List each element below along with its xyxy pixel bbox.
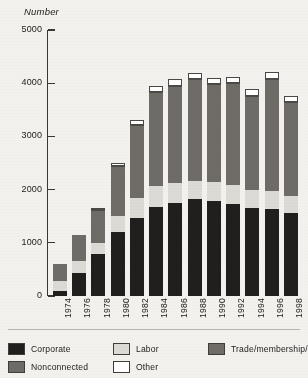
bar-1998 (284, 96, 298, 296)
bar-segment-other (168, 79, 182, 86)
bar-segment-other (207, 78, 221, 85)
y-axis-title: Number (24, 6, 59, 17)
bar-segment-labor (72, 261, 86, 273)
x-axis-label-1978: 1978 (102, 298, 112, 318)
bar-segment-nonconnected (149, 92, 163, 148)
x-axis-label-1996: 1996 (275, 298, 285, 318)
bar-segment-corporate (130, 218, 144, 296)
bar-segment-trade-membership-health (72, 235, 86, 261)
bar-segment-corporate (245, 208, 259, 296)
legend-swatch-icon (208, 343, 225, 355)
bar-segment-labor (111, 216, 125, 232)
legend-divider (8, 329, 300, 330)
x-axis-label-1974: 1974 (63, 298, 73, 318)
bar-segment-labor (284, 196, 298, 213)
bar-segment-trade-membership-health (188, 139, 202, 181)
legend-item-labor[interactable]: Labor (113, 343, 159, 355)
x-axis-label-1998: 1998 (294, 298, 304, 318)
bar-segment-nonconnected (188, 79, 202, 138)
bar-segment-labor (168, 183, 182, 203)
bar-segment-nonconnected (245, 96, 259, 148)
x-axis-label-1986: 1986 (179, 298, 189, 318)
bar-segment-trade-membership-health (245, 148, 259, 190)
legend-label: Other (136, 362, 158, 372)
legend-label: Nonconnected (31, 362, 88, 372)
y-axis-tick-label: 3000 (22, 130, 42, 140)
x-axis-label-1980: 1980 (121, 298, 131, 318)
bar-segment-trade-membership-health (226, 144, 240, 185)
bar-segment-trade-membership-health (149, 148, 163, 185)
bar-1986 (168, 79, 182, 296)
bar-1976 (72, 235, 86, 296)
bar-segment-labor (149, 186, 163, 207)
bar-segment-corporate (265, 209, 279, 296)
bar-segment-trade-membership-health (168, 143, 182, 183)
y-axis-tick-label: 2000 (22, 184, 42, 194)
bar-segment-corporate (207, 201, 221, 296)
y-axis-tick-label: 1000 (22, 237, 42, 247)
bar-segment-corporate (111, 232, 125, 296)
chart-legend: CorporateNonconnectedLaborOtherTrade/mem… (0, 329, 308, 378)
bar-1974 (53, 264, 67, 296)
legend-label: Trade/membership/health (231, 344, 308, 354)
bar-1978 (91, 208, 105, 296)
x-axis-label-1988: 1988 (198, 298, 208, 318)
legend-item-corporate[interactable]: Corporate (8, 343, 71, 355)
legend-label: Labor (136, 344, 159, 354)
bar-segment-labor (188, 181, 202, 200)
bar-segment-labor (53, 281, 67, 292)
plot-area (47, 30, 305, 296)
bar-segment-trade-membership-health (207, 141, 221, 182)
bar-segment-corporate (53, 291, 67, 296)
bar-segment-corporate (188, 199, 202, 296)
legend-item-trade-membership-health[interactable]: Trade/membership/health (208, 343, 308, 355)
bar-segment-trade-membership-health (130, 163, 144, 198)
bar-segment-other (149, 86, 163, 93)
legend-swatch-icon (113, 343, 130, 355)
y-axis-tick-label: 4000 (22, 77, 42, 87)
bar-1990 (207, 78, 221, 296)
x-axis-label-1982: 1982 (140, 298, 150, 318)
bar-segment-trade-membership-health (111, 186, 125, 217)
bar-segment-other (188, 73, 202, 80)
bar-1994 (245, 89, 259, 296)
bar-segment-other (245, 89, 259, 96)
bar-segment-corporate (91, 254, 105, 296)
legend-item-nonconnected[interactable]: Nonconnected (8, 361, 88, 373)
bar-segment-labor (265, 191, 279, 209)
legend-swatch-icon (113, 361, 130, 373)
y-axis-tick-label: 5000 (22, 24, 42, 34)
bar-segment-nonconnected (265, 79, 279, 146)
bar-segment-nonconnected (91, 210, 105, 219)
bar-segment-nonconnected (130, 125, 144, 163)
bar-segment-nonconnected (284, 102, 298, 152)
bar-segment-trade-membership-health (91, 219, 105, 243)
bar-segment-corporate (168, 203, 182, 296)
bar-segment-labor (245, 190, 259, 208)
bar-segment-nonconnected (168, 86, 182, 143)
x-axis-label-1984: 1984 (159, 298, 169, 318)
y-axis-tick-labels: 010002000300040005000 (0, 30, 42, 296)
x-axis-label-1976: 1976 (82, 298, 92, 318)
bar-segment-other (265, 72, 279, 79)
legend-item-other[interactable]: Other (113, 361, 158, 373)
legend-label: Corporate (31, 344, 71, 354)
bar-1988 (188, 73, 202, 296)
chart-container: Number 010002000300040005000 19741976197… (0, 0, 308, 378)
bar-1996 (265, 72, 279, 296)
bar-1980 (111, 163, 125, 296)
bar-segment-corporate (149, 207, 163, 296)
bar-segment-labor (207, 182, 221, 200)
legend-swatch-icon (8, 343, 25, 355)
bar-segment-trade-membership-health (53, 264, 67, 281)
bar-segment-nonconnected (111, 166, 125, 186)
bar-segment-corporate (226, 204, 240, 296)
bar-1982 (130, 120, 144, 296)
bar-segment-nonconnected (226, 83, 240, 144)
legend-swatch-icon (8, 361, 25, 373)
bar-1992 (226, 77, 240, 296)
y-axis-tick-label: 0 (37, 290, 42, 300)
x-axis-label-1994: 1994 (256, 298, 266, 318)
bar-segment-nonconnected (207, 84, 221, 140)
x-axis-label-1990: 1990 (217, 298, 227, 318)
